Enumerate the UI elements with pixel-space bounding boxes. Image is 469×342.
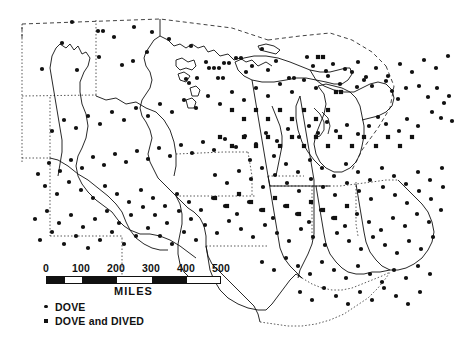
circle-marker <box>345 123 349 127</box>
circle-marker <box>343 67 347 71</box>
circle-marker <box>426 95 430 99</box>
circle-marker <box>323 243 327 247</box>
circle-marker <box>359 247 363 251</box>
circle-marker <box>110 110 114 114</box>
legend-label-dove: DOVE <box>55 301 86 313</box>
circle-marker <box>404 276 408 280</box>
circle-marker <box>344 162 348 166</box>
circle-marker <box>405 117 409 121</box>
circle-marker <box>439 116 443 120</box>
circle-marker <box>384 122 388 126</box>
circle-marker <box>376 115 380 119</box>
circle-marker <box>447 94 451 98</box>
circle-marker <box>69 213 73 217</box>
circle-marker <box>333 193 337 197</box>
square-marker <box>290 117 294 121</box>
scale-tick-200: 200 <box>107 262 125 274</box>
circle-marker <box>430 110 434 114</box>
circle-marker <box>308 272 312 276</box>
circle-marker <box>419 247 423 251</box>
circle-marker <box>134 106 138 110</box>
circle-marker <box>427 220 431 224</box>
circle-marker <box>374 66 378 70</box>
circle-marker <box>332 174 336 178</box>
circle-marker <box>91 155 95 159</box>
circle-marker <box>184 77 188 81</box>
circle-marker <box>275 231 279 235</box>
circle-marker <box>358 290 362 294</box>
circle-marker <box>139 188 143 192</box>
scale-segment-4 <box>152 277 187 283</box>
circle-marker <box>368 178 372 182</box>
circle-marker <box>273 173 277 177</box>
square-marker <box>334 90 338 94</box>
circle-marker <box>393 193 397 197</box>
square-marker <box>297 212 301 216</box>
circle-marker <box>403 224 407 228</box>
circle-marker <box>239 56 243 60</box>
circle-marker <box>189 217 193 221</box>
circle-marker <box>113 152 117 156</box>
circle-marker <box>244 70 248 74</box>
circle-marker <box>115 192 119 196</box>
circle-marker <box>429 197 433 201</box>
circle-marker <box>355 85 359 89</box>
circle-marker <box>234 145 238 149</box>
circle-marker <box>70 20 74 24</box>
scale-unit-label: MILES <box>46 285 221 297</box>
circle-marker <box>284 256 288 260</box>
scale-tick-100: 100 <box>72 262 90 274</box>
circle-marker <box>117 221 121 225</box>
circle-marker <box>204 60 208 64</box>
circle-marker <box>278 82 282 86</box>
circle-marker <box>442 101 446 105</box>
legend-item-dove: DOVE <box>44 300 144 313</box>
circle-marker <box>248 158 252 162</box>
circle-marker <box>38 238 42 242</box>
circle-marker <box>370 84 374 88</box>
square-marker <box>350 144 354 148</box>
circle-marker <box>102 163 106 167</box>
circle-marker <box>439 208 443 212</box>
circle-marker <box>356 60 360 64</box>
square-marker <box>254 108 258 112</box>
circle-marker <box>131 59 135 63</box>
circle-marker <box>218 102 222 106</box>
circle-marker <box>153 213 157 217</box>
circle-marker <box>308 158 312 162</box>
circle-marker <box>50 230 54 234</box>
scale-bar-graphic <box>46 276 221 284</box>
circle-marker <box>158 102 162 106</box>
square-marker <box>338 135 342 139</box>
square-marker <box>314 117 318 121</box>
circle-marker <box>150 30 154 34</box>
square-marker <box>278 108 282 112</box>
square-marker <box>242 135 246 139</box>
square-marker <box>213 196 217 200</box>
circle-marker <box>55 192 59 196</box>
circle-marker <box>182 98 186 102</box>
circle-marker <box>122 242 126 246</box>
circle-marker <box>251 235 255 239</box>
circle-marker <box>212 148 216 152</box>
circle-marker <box>235 212 239 216</box>
circle-marker <box>428 178 432 182</box>
circle-marker <box>58 169 62 173</box>
circle-marker <box>86 114 90 118</box>
circle-marker <box>124 160 128 164</box>
circle-marker <box>314 86 318 90</box>
circle-marker <box>168 154 172 158</box>
circle-marker <box>356 170 360 174</box>
circle-marker <box>40 67 44 71</box>
square-marker <box>410 135 414 139</box>
circle-marker <box>325 120 329 124</box>
circle-marker <box>91 196 95 200</box>
circle-marker <box>274 59 278 63</box>
circle-marker <box>43 184 47 188</box>
square-marker <box>242 117 246 121</box>
circle-marker <box>260 260 264 264</box>
circle-marker <box>367 124 371 128</box>
circle-marker <box>151 196 155 200</box>
circle-marker <box>307 220 311 224</box>
square-marker <box>314 135 318 139</box>
